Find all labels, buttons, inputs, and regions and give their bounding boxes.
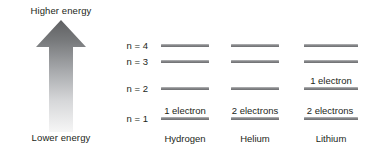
electron-count-lithium-n2: 1 electron [301, 75, 361, 86]
level-line-helium-n4 [231, 44, 279, 47]
level-line-helium-n2 [231, 87, 279, 90]
electron-count-lithium-n1: 2 electrons [297, 105, 363, 116]
electron-count-helium-n1: 2 electrons [222, 105, 288, 116]
element-label-helium: Helium [224, 133, 286, 144]
level-line-hydrogen-n4 [161, 44, 209, 47]
levels-grid: n = 4 n = 3 n = 2 n = 1 1 electron Hydro… [0, 0, 372, 156]
level-line-lithium-n2 [304, 87, 358, 90]
level-line-helium-n3 [231, 60, 279, 63]
element-label-lithium: Lithium [300, 133, 362, 144]
level-line-helium-n1 [231, 117, 279, 120]
level-label-n1: n = 1 [104, 113, 148, 124]
level-line-lithium-n4 [304, 44, 358, 47]
element-label-hydrogen: Hydrogen [153, 133, 217, 144]
level-line-hydrogen-n3 [161, 60, 209, 63]
level-line-lithium-n3 [304, 60, 358, 63]
energy-level-diagram: Higher energy Lower energy n = 4 n = 3 n… [0, 0, 372, 156]
level-line-hydrogen-n2 [161, 87, 209, 90]
level-label-n3: n = 3 [104, 56, 148, 67]
level-line-hydrogen-n1 [161, 117, 209, 120]
level-line-lithium-n1 [304, 117, 358, 120]
level-label-n4: n = 4 [104, 40, 148, 51]
level-label-n2: n = 2 [104, 83, 148, 94]
electron-count-hydrogen-n1: 1 electron [155, 105, 215, 116]
